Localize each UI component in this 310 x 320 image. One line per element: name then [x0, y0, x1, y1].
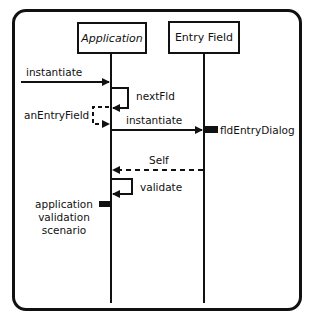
message-label-nextFld: nextFld	[136, 90, 175, 102]
message-label-self: Self	[149, 154, 169, 166]
message-label-validate: validate	[140, 181, 182, 193]
lifeline-entry-field-label: Entry Field	[175, 31, 233, 44]
message-nextFld-self	[111, 88, 128, 108]
lifeline-application-label: Application	[81, 32, 142, 45]
message-label-instantiate-entryfield: instantiate	[126, 114, 182, 126]
scenario-line-3: scenario	[30, 224, 98, 237]
lifeline-entry-field: Entry Field	[168, 21, 240, 54]
sequence-diagram: Application Entry Field instantiate next…	[0, 0, 310, 320]
message-validate-self	[111, 179, 132, 194]
scenario-label: application validation scenario	[30, 198, 98, 237]
scenario-line-2: validation	[30, 211, 98, 224]
message-label-instantiate-external: instantiate	[26, 66, 82, 78]
message-anEntryField-return	[93, 107, 109, 124]
application-validation-activation	[99, 201, 110, 207]
message-label-anEntryField: anEntryField	[24, 109, 89, 121]
scenario-line-1: application	[30, 198, 98, 211]
fldEntryDialog-activation	[205, 126, 218, 133]
activation-label-fldEntryDialog: fldEntryDialog	[220, 124, 295, 136]
lifeline-application: Application	[77, 22, 147, 54]
